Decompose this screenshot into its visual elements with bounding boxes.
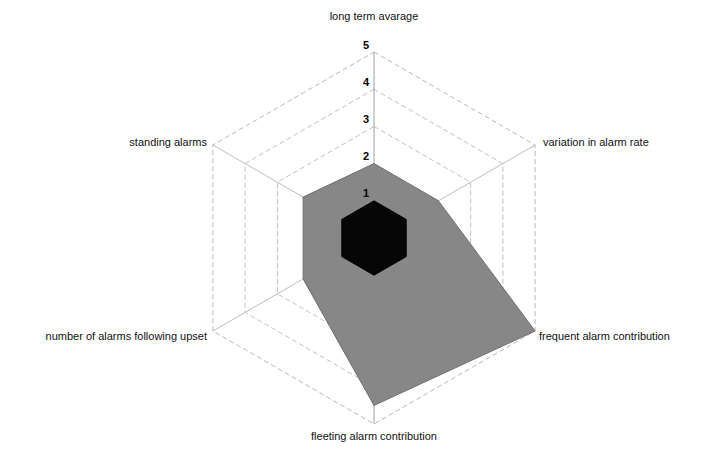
tick-label-3: 3 [363,113,369,125]
axis-label-frequent-alarm-contribution: frequent alarm contribution [539,330,670,342]
tick-label-5: 5 [363,39,369,51]
axis-label-number-of-alarms-following-upset: number of alarms following upset [46,330,207,342]
series-polygon-outer [303,164,535,406]
axis-label-standing-alarms: standing alarms [129,136,207,148]
axis-label-long-term-avarage: long term avarage [330,10,419,22]
tick-label-4: 4 [363,76,370,88]
axis-label-fleeting-alarm-contribution: fleeting alarm contribution [311,430,437,442]
axis-label-variation-in-alarm-rate: variation in alarm rate [543,136,649,148]
radar-chart: 5 4 3 2 1 long term avarage variation in… [0,0,713,465]
radar-chart-canvas: 5 4 3 2 1 long term avarage variation in… [0,0,713,465]
tick-label-1: 1 [363,187,369,199]
tick-label-2: 2 [363,150,369,162]
